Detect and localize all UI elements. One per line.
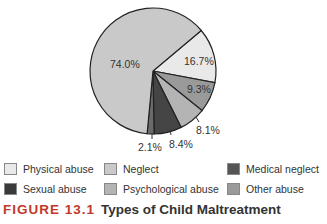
figure-caption: FIGURE 13.1Types of Child Maltreatment xyxy=(3,202,281,217)
legend-item-sexual-abuse: Sexual abuse xyxy=(4,183,87,195)
swatch-icon xyxy=(4,163,17,175)
swatch-icon xyxy=(104,183,117,195)
figure-number: FIGURE 13.1 xyxy=(3,202,95,217)
label-psychological-abuse: 8.1% xyxy=(196,124,220,136)
legend-item-medical-neglect: Medical neglect xyxy=(227,163,319,175)
swatch-icon xyxy=(227,183,240,195)
legend-item-neglect: Neglect xyxy=(104,163,159,175)
label-sexual-abuse: 8.4% xyxy=(169,138,193,150)
label-physical-abuse: 16.7% xyxy=(184,55,214,67)
swatch-icon xyxy=(227,163,240,175)
pie-chart xyxy=(0,0,327,160)
label-neglect: 74.0% xyxy=(110,58,140,70)
label-other-abuse: 9.3% xyxy=(187,83,211,95)
label-medical-neglect: 2.1% xyxy=(138,141,162,153)
legend-item-physical-abuse: Physical abuse xyxy=(4,163,94,175)
swatch-icon xyxy=(104,163,117,175)
legend-item-other-abuse: Other abuse xyxy=(227,183,304,195)
leader-line xyxy=(196,117,199,122)
legend-item-psychological-abuse: Psychological abuse xyxy=(104,183,219,195)
figure-title: Types of Child Maltreatment xyxy=(101,202,281,217)
swatch-icon xyxy=(4,183,17,195)
